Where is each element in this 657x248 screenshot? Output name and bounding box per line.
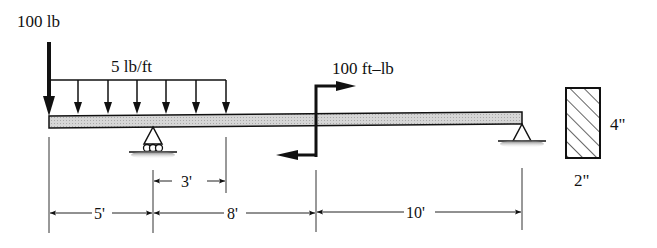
cross-section-width-label: 2"	[574, 171, 589, 190]
dimension-3ft-label: 3'	[181, 173, 192, 190]
beam	[49, 112, 522, 128]
roller-support	[129, 127, 177, 159]
distributed-load-label: 5 lb/ft	[111, 57, 152, 76]
beam-diagram: 100 lb 5 lb/ft 100 ft–lb	[0, 0, 657, 248]
cross-section	[566, 88, 600, 158]
dimension-10ft-label: 10'	[406, 204, 425, 221]
pin-support	[498, 124, 546, 148]
dimension-8ft-label: 8'	[227, 205, 238, 222]
extension-lines	[49, 137, 522, 233]
distributed-load	[49, 80, 230, 114]
cross-section-height-label: 4"	[610, 115, 625, 134]
point-load-label: 100 lb	[17, 12, 60, 31]
dimension-5ft-label: 5'	[94, 205, 105, 222]
moment-label: 100 ft–lb	[332, 59, 394, 78]
point-load-arrow	[43, 42, 55, 116]
